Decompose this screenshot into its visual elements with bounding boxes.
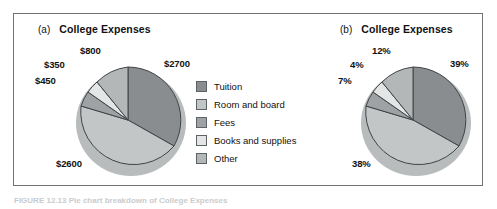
legend-swatch-books-and-supplies bbox=[196, 135, 207, 146]
pie-a-label-room: $2600 bbox=[56, 158, 82, 169]
pie-b-label-books: 4% bbox=[350, 59, 364, 70]
legend-swatch-room-and-board bbox=[196, 99, 207, 110]
legend-item-room-and-board: Room and board bbox=[196, 95, 326, 113]
pie-a-label-tuition: $2700 bbox=[164, 58, 190, 69]
panel-a-letter: (a) bbox=[38, 24, 50, 35]
legend-item-books-and-supplies: Books and supplies bbox=[196, 131, 326, 149]
pie-chart-b bbox=[354, 61, 476, 179]
panel-b-title: College Expenses bbox=[361, 23, 452, 35]
figure-frame: (a)College Expenses $800 $350 $450 $2700… bbox=[13, 13, 483, 186]
pie-a-svg bbox=[69, 61, 191, 179]
legend-swatch-tuition bbox=[196, 81, 207, 92]
legend-item-other: Other bbox=[196, 149, 326, 167]
pie-a-label-other: $800 bbox=[80, 45, 101, 56]
legend-swatch-other bbox=[196, 153, 207, 164]
chart-panel-b: (b)College Expenses 12% 4% 7% 39% 38% bbox=[332, 14, 484, 185]
figure-caption: FIGURE 12.13 Pie chart breakdown of Coll… bbox=[14, 196, 474, 205]
pie-b-svg bbox=[354, 61, 476, 179]
pie-a-label-fees: $450 bbox=[35, 75, 56, 86]
panel-a-title: College Expenses bbox=[59, 23, 150, 35]
legend-item-tuition: Tuition bbox=[196, 77, 326, 95]
legend-label-fees: Fees bbox=[214, 117, 235, 128]
legend-label-room-and-board: Room and board bbox=[214, 99, 285, 110]
chart-panel-a: (a)College Expenses $800 $350 $450 $2700… bbox=[14, 14, 254, 185]
pie-chart-a bbox=[69, 61, 191, 179]
panel-b-heading: (b)College Expenses bbox=[340, 23, 453, 35]
legend-item-fees: Fees bbox=[196, 113, 326, 131]
pie-b-label-fees: 7% bbox=[338, 75, 352, 86]
legend-label-other: Other bbox=[214, 153, 238, 164]
pie-b-label-other: 12% bbox=[372, 45, 391, 56]
panel-a-heading: (a)College Expenses bbox=[38, 23, 151, 35]
chart-legend: Tuition Room and board Fees Books and su… bbox=[196, 77, 326, 167]
pie-b-label-tuition: 39% bbox=[450, 58, 469, 69]
legend-swatch-fees bbox=[196, 117, 207, 128]
pie-a-label-books: $350 bbox=[44, 59, 65, 70]
legend-label-books-and-supplies: Books and supplies bbox=[214, 135, 296, 146]
panel-b-letter: (b) bbox=[340, 24, 352, 35]
legend-label-tuition: Tuition bbox=[214, 81, 242, 92]
pie-b-label-room: 38% bbox=[352, 158, 371, 169]
